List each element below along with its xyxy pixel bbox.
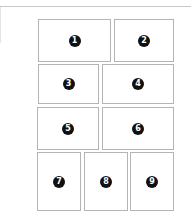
panel-number-badge: 5 [62, 123, 74, 135]
panel-2: 2 [114, 19, 174, 62]
panel-number-badge: 4 [132, 78, 144, 90]
panel-7: 7 [37, 152, 81, 211]
panel-number-badge: 9 [146, 176, 158, 188]
panel-4: 4 [102, 64, 174, 104]
panel-number-badge: 6 [132, 123, 144, 135]
panel-1: 1 [38, 19, 111, 62]
panel-number-badge: 7 [53, 176, 65, 188]
top-divider [0, 6, 191, 7]
left-divider [0, 7, 1, 43]
panel-number-badge: 2 [138, 35, 150, 47]
panel-3: 3 [38, 64, 99, 104]
panel-8: 8 [84, 152, 128, 211]
panel-9: 9 [130, 152, 174, 211]
panel-6: 6 [102, 107, 174, 150]
panel-number-badge: 3 [63, 78, 75, 90]
panel-number-badge: 8 [100, 176, 112, 188]
panel-5: 5 [37, 107, 99, 150]
panel-number-badge: 1 [69, 35, 81, 47]
